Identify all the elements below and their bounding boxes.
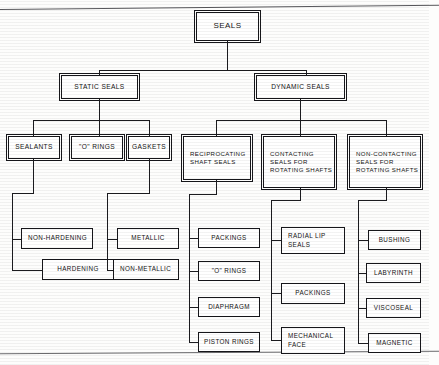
connector-gaskets-jog bbox=[107, 193, 150, 194]
connector-gaskets-spine bbox=[107, 193, 108, 271]
connector-noncontacting-drop bbox=[386, 188, 387, 200]
node-label: PISTON RINGS bbox=[204, 338, 254, 346]
node-label: PACKINGS bbox=[211, 234, 246, 242]
connector-contacting-drop bbox=[300, 188, 301, 200]
node-label: MAGNETIC bbox=[376, 339, 412, 347]
connector-noncontacting-spine bbox=[358, 200, 359, 343]
connector-to-noncontacting bbox=[386, 120, 387, 136]
connector-static-bus bbox=[33, 120, 149, 121]
node-magnetic[interactable]: MAGNETIC bbox=[368, 333, 421, 353]
node-label-line3: ROTATING SHAFTS bbox=[356, 166, 418, 174]
connector-stub-hardening bbox=[12, 270, 43, 271]
connector-noncontacting-jog bbox=[358, 200, 387, 201]
node-non-hardening[interactable]: NON-HARDENING bbox=[21, 228, 93, 249]
node-label-line2: SEALS bbox=[288, 241, 310, 249]
node-label-line2: FACE bbox=[288, 341, 306, 349]
connector-contacting-spine bbox=[271, 200, 272, 340]
node-contacting-seals-rotating-shafts[interactable]: CONTACTING SEALS FOR ROTATING SHAFTS bbox=[263, 136, 335, 188]
scan-artifact-line-top bbox=[0, 5, 439, 10]
node-label-line1: MECHANICAL bbox=[288, 332, 333, 340]
node-label: METALLIC bbox=[131, 234, 165, 242]
connector-sealants-jog bbox=[12, 193, 34, 194]
connector-sealants-drop bbox=[33, 159, 34, 193]
node-labyrinth[interactable]: LABYRINTH bbox=[366, 263, 421, 283]
connector-static-drop bbox=[99, 99, 100, 120]
connector-to-sealants bbox=[33, 120, 34, 136]
connector-reciprocating-jog bbox=[189, 194, 217, 195]
node-metallic[interactable]: METALLIC bbox=[117, 228, 179, 249]
node-seals-root[interactable]: SEALS bbox=[196, 12, 259, 41]
node-label-line2: SHAFT SEALS bbox=[190, 158, 236, 166]
node-label-line1: RADIAL LIP bbox=[288, 232, 326, 240]
node-label: SEALS bbox=[214, 21, 242, 31]
node-non-metallic[interactable]: NON-METALLIC bbox=[113, 259, 179, 280]
node-dynamic-seals[interactable]: DYNAMIC SEALS bbox=[256, 75, 345, 99]
connector-to-reciprocating bbox=[216, 120, 217, 136]
node-label-line2: SEALS FOR bbox=[356, 158, 394, 166]
node-label: HARDENING bbox=[57, 265, 98, 273]
connector-root-drop bbox=[227, 41, 228, 70]
node-label-line1: NON-CONTACTING bbox=[356, 150, 417, 158]
node-label-line1: CONTACTING bbox=[270, 150, 314, 158]
connector-to-orings bbox=[99, 120, 100, 136]
node-static-seals[interactable]: STATIC SEALS bbox=[61, 75, 138, 99]
node-label: STATIC SEALS bbox=[74, 83, 124, 91]
connector-to-contacting bbox=[300, 120, 301, 136]
connector-to-gaskets bbox=[149, 120, 150, 136]
node-mechanical-face[interactable]: MECHANICAL FACE bbox=[281, 327, 345, 354]
connector-sealants-spine bbox=[12, 193, 13, 271]
node-bushing[interactable]: BUSHING bbox=[368, 230, 421, 250]
node-label-line1: RECIPROCATING bbox=[190, 150, 246, 158]
node-label: NON-HARDENING bbox=[28, 234, 87, 242]
connector-dynamic-drop bbox=[300, 99, 301, 120]
node-packings-reciprocating[interactable]: PACKINGS bbox=[198, 228, 260, 248]
node-label: VISCOSEAL bbox=[374, 304, 413, 312]
node-piston-rings[interactable]: PISTON RINGS bbox=[198, 332, 260, 352]
node-label: LABYRINTH bbox=[374, 269, 413, 277]
node-diaphragm[interactable]: DIAPHRAGM bbox=[198, 297, 260, 317]
node-label: GASKETS bbox=[132, 143, 166, 151]
node-viscoseal[interactable]: VISCOSEAL bbox=[366, 298, 421, 318]
node-gaskets[interactable]: GASKETS bbox=[128, 136, 170, 159]
node-label: "O" RINGS bbox=[79, 143, 115, 151]
node-label: DYNAMIC SEALS bbox=[271, 83, 330, 91]
node-o-rings-reciprocating[interactable]: "O" RINGS bbox=[198, 261, 260, 281]
connector-reciprocating-spine bbox=[189, 194, 190, 342]
connector-dynamic-bus bbox=[216, 120, 386, 121]
node-packings-contacting[interactable]: PACKINGS bbox=[281, 283, 345, 304]
node-label: DIAPHRAGM bbox=[208, 303, 250, 311]
node-label-line3: ROTATING SHAFTS bbox=[270, 166, 332, 174]
connector-reciprocating-drop bbox=[216, 180, 217, 194]
node-radial-lip-seals[interactable]: RADIAL LIP SEALS bbox=[281, 227, 345, 254]
node-sealants[interactable]: SEALANTS bbox=[8, 136, 60, 159]
node-hardening[interactable]: HARDENING bbox=[42, 259, 114, 280]
node-non-contacting-seals-rotating-shafts[interactable]: NON-CONTACTING SEALS FOR ROTATING SHAFTS bbox=[349, 136, 421, 188]
node-label: NON-METALLIC bbox=[120, 265, 171, 273]
node-label: "O" RINGS bbox=[212, 267, 247, 275]
connector-root-bus bbox=[99, 70, 306, 71]
connector-gaskets-drop bbox=[149, 159, 150, 193]
node-label: BUSHING bbox=[379, 236, 411, 244]
node-label: SEALANTS bbox=[15, 143, 53, 151]
connector-contacting-jog bbox=[271, 200, 301, 201]
node-o-rings[interactable]: "O" RINGS bbox=[71, 136, 123, 159]
node-reciprocating-shaft-seals[interactable]: RECIPROCATING SHAFT SEALS bbox=[183, 136, 251, 180]
node-label: PACKINGS bbox=[295, 289, 330, 297]
node-label-line2: SEALS FOR bbox=[270, 158, 308, 166]
